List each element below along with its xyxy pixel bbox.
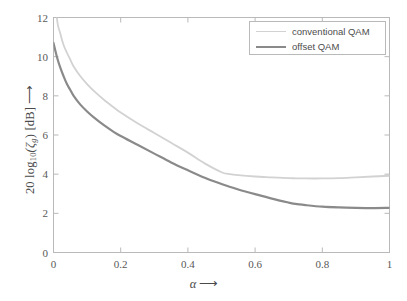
x-tick-label: 0.2: [114, 258, 128, 270]
y-axis-label-sub-g: g: [28, 138, 38, 142]
x-tick-label: 0.4: [181, 258, 195, 270]
y-axis-label: 20 log10(ζg) [dB]⟶: [22, 40, 38, 240]
x-tick-label: 0.8: [315, 258, 329, 270]
y-axis-label-units: ) [dB]: [23, 107, 37, 138]
legend: conventional QAM offset QAM: [249, 21, 386, 55]
legend-swatch-conventional-qam: [256, 31, 286, 32]
y-tick-label: 12: [22, 12, 48, 24]
x-axis-label: α⟶: [0, 276, 407, 292]
legend-swatch-offset-qam: [256, 46, 286, 48]
x-tick-label: 0: [51, 258, 57, 270]
x-tick-label: 0.6: [248, 258, 262, 270]
series-line-offset-qam: [54, 43, 390, 208]
y-axis-label-sub-ten: 10: [28, 152, 38, 161]
y-tick-label: 0: [22, 247, 48, 259]
x-tick-label: 1: [387, 258, 393, 270]
legend-label-conventional-qam: conventional QAM: [292, 26, 370, 37]
legend-item-conventional-qam: conventional QAM: [250, 24, 387, 39]
legend-item-offset-qam: offset QAM: [250, 39, 387, 54]
x-axis-arrow-icon: ⟶: [196, 277, 217, 291]
y-axis-arrow-icon: ⟶: [23, 86, 37, 107]
y-axis-label-prefix: 20 log: [23, 161, 37, 194]
chart-figure: 024681012 00.20.40.60.81 20 log10(ζg) [d…: [0, 0, 407, 301]
legend-label-offset-qam: offset QAM: [292, 41, 339, 52]
y-axis-label-zeta: (ζ: [23, 143, 37, 153]
